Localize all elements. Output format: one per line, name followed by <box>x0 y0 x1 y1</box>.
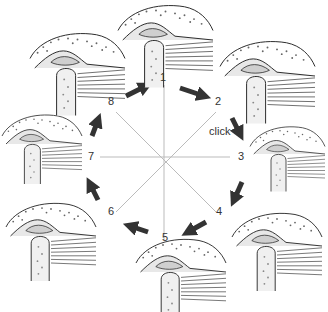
position-label-8: 8 <box>108 96 114 107</box>
tmj-cycle-diagram: 1 2 3 4 5 6 7 8 click <box>0 0 328 312</box>
position-label-3: 3 <box>238 151 244 162</box>
position-label-7: 7 <box>88 151 94 162</box>
spokes <box>100 85 230 240</box>
position-label-2: 2 <box>215 96 221 107</box>
position-label-1: 1 <box>160 72 166 83</box>
spokes-and-arrows <box>0 0 328 312</box>
position-label-6: 6 <box>108 206 114 217</box>
position-label-4: 4 <box>216 206 222 217</box>
click-annotation: click <box>209 125 230 137</box>
position-label-5: 5 <box>162 232 168 243</box>
